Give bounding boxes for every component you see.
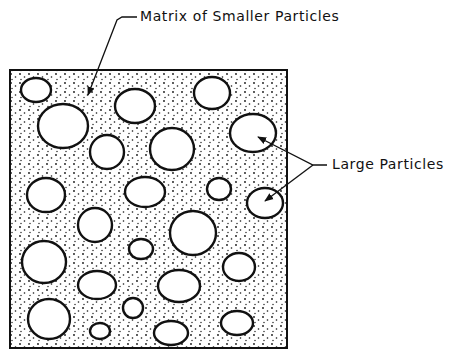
- large-particle: [21, 78, 51, 102]
- large-particle: [247, 188, 283, 218]
- large-particle: [78, 208, 112, 242]
- particle-diagram: [0, 0, 464, 360]
- large-particle: [28, 299, 70, 339]
- large-particle: [27, 178, 65, 212]
- large-particle: [90, 135, 124, 169]
- large-particle: [207, 178, 231, 200]
- large-particle: [221, 311, 253, 335]
- large-particle: [115, 89, 155, 123]
- large-particle: [78, 271, 116, 299]
- large-particle: [90, 323, 110, 339]
- large-particle: [150, 128, 194, 170]
- large-particle: [170, 211, 216, 255]
- large-particle: [194, 77, 230, 109]
- large-particle: [125, 177, 165, 207]
- large-particle: [38, 104, 88, 148]
- large-particle: [154, 321, 188, 345]
- large-particles-label: Large Particles: [332, 156, 444, 172]
- large-particle: [22, 241, 66, 283]
- large-particle: [230, 114, 276, 152]
- large-particle: [129, 239, 153, 259]
- large-particle: [123, 298, 143, 318]
- large-particle: [158, 270, 200, 302]
- large-particle: [223, 253, 255, 281]
- matrix-label: Matrix of Smaller Particles: [140, 8, 339, 24]
